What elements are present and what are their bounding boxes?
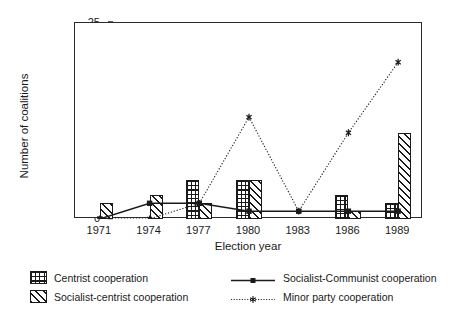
series-socialist-communist-cooperation — [97, 201, 401, 219]
x-tick-label: 1977 — [186, 224, 210, 236]
legend-label: Socialist-Communist cooperation — [283, 272, 436, 284]
data-point-marker — [147, 201, 152, 206]
chart-root: Number of coalitions 0510152025 19711974… — [0, 0, 459, 317]
x-tick-label: 1980 — [236, 224, 260, 236]
legend-item-socialist-communist: Socialist-Communist cooperation — [230, 272, 435, 284]
legend-item-socialist-centrist: Socialist-centrist cooperation — [30, 290, 230, 303]
y-axis-label: Number of coalitions — [18, 26, 30, 226]
x-tick-label: 1971 — [87, 224, 111, 236]
data-point-marker — [246, 209, 251, 214]
x-tick-label: 1989 — [385, 224, 409, 236]
legend-label: Minor party cooperation — [283, 291, 393, 303]
legend-item-centrist: Centrist cooperation — [30, 271, 230, 284]
data-point-marker — [395, 209, 400, 214]
x-tick-label: 1974 — [136, 224, 160, 236]
legend-label: Socialist-centrist cooperation — [54, 291, 188, 303]
data-point-marker — [346, 129, 351, 136]
grid-hatch-swatch — [30, 271, 47, 284]
dotted-line-swatch — [230, 291, 276, 302]
lines-layer — [75, 23, 423, 219]
solid-line-swatch — [230, 272, 276, 283]
plot-area — [74, 22, 422, 218]
data-point-marker — [346, 209, 351, 214]
x-tick-label: 1983 — [285, 224, 309, 236]
series-minor-party-cooperation — [97, 59, 400, 219]
diagonal-hatch-swatch — [30, 290, 47, 303]
legend-label: Centrist cooperation — [54, 272, 148, 284]
chart-legend: Centrist cooperation Socialist-Communist… — [30, 268, 435, 308]
legend-item-minor-party: Minor party cooperation — [230, 291, 435, 303]
x-axis-label: Election year — [74, 240, 422, 252]
x-tick-label: 1986 — [335, 224, 359, 236]
